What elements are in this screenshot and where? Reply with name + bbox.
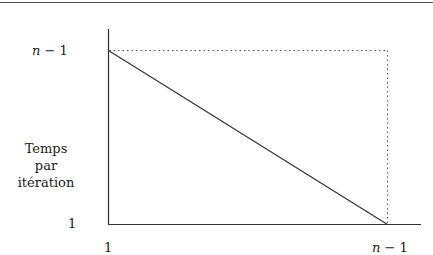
x-tick-left: 1 — [104, 240, 112, 255]
x-tick-right: n − 1 — [372, 240, 408, 255]
x-tick-right-rest: − 1 — [380, 240, 407, 255]
diagram-canvas — [0, 0, 433, 255]
y-label-line-1: Temps — [14, 140, 78, 157]
y-tick-bottom: 1 — [68, 216, 76, 231]
y-label-line-2: par — [14, 157, 78, 174]
y-label-line-3: itération — [14, 174, 78, 191]
y-tick-top: n − 1 — [32, 43, 68, 58]
y-axis-label: Temps par itération — [14, 140, 78, 191]
y-tick-top-rest: − 1 — [40, 43, 67, 58]
series-line — [109, 51, 388, 225]
